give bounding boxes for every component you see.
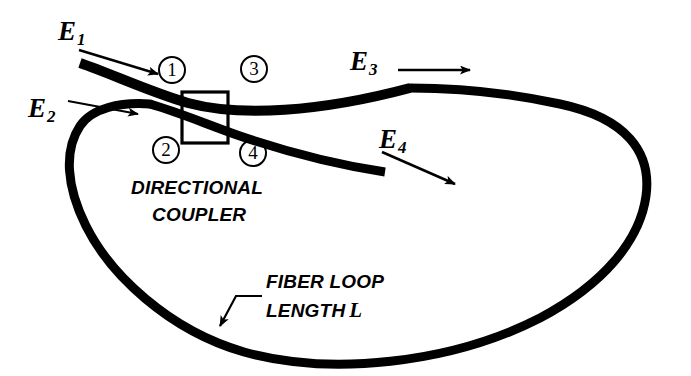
port-marker-3: 3: [240, 55, 268, 83]
fiber-loop-caption-line-1: FIBER LOOP: [266, 272, 384, 291]
field-label-e4: E4: [379, 126, 407, 156]
port-marker-1: 1: [158, 56, 186, 84]
fiber-loop-leader-arrow: [220, 296, 262, 326]
port-marker-4-number: 4: [248, 142, 258, 164]
field-label-e1-subscript: 1: [76, 30, 86, 49]
port-marker-2-number: 2: [161, 139, 171, 161]
port-marker-4: 4: [239, 139, 267, 167]
field-label-e4-subscript: 4: [397, 138, 407, 157]
e4-arrow: [382, 152, 455, 184]
fiber-loop-path: [69, 88, 647, 364]
field-label-e1: E1: [58, 18, 86, 48]
port-marker-2: 2: [152, 136, 180, 164]
field-label-e3: E3: [350, 48, 378, 78]
field-label-e3-base: E: [350, 46, 368, 76]
field-label-e2-subscript: 2: [46, 107, 56, 126]
field-label-e2: E2: [28, 95, 56, 125]
field-label-e2-base: E: [28, 93, 46, 123]
fiber-loop-length-variable: L: [345, 298, 362, 322]
port-marker-3-number: 3: [249, 58, 259, 80]
field-label-e1-base: E: [58, 16, 76, 46]
port-marker-1-number: 1: [167, 59, 177, 81]
coupler-caption-line-2: COUPLER: [152, 205, 246, 224]
fiber-loop-length-word: LENGTH: [266, 300, 345, 321]
fiber-loop-caption-line-2: LENGTHL: [266, 300, 362, 321]
coupler-caption-line-1: DIRECTIONAL: [131, 178, 263, 197]
fiber-loop-coupler-figure: E1 E2 E3 E4 1 3 2 4 DIRECTIONAL COUPLER …: [0, 0, 691, 376]
field-label-e3-subscript: 3: [368, 60, 378, 79]
field-label-e4-base: E: [379, 124, 397, 154]
